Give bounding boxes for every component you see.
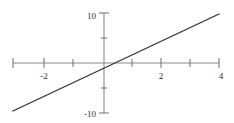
plot-canvas: 10 -10 -2 2 4 xyxy=(0,0,234,123)
line-graph-figure: 10 -10 -2 2 4 xyxy=(0,0,234,123)
y-axis-label-10: 10 xyxy=(87,11,97,21)
x-axis-label-4: 4 xyxy=(219,71,224,81)
y-axis-label-minus-10: -10 xyxy=(84,109,96,119)
x-axis-label-minus-2: -2 xyxy=(40,71,48,81)
x-axis-label-2: 2 xyxy=(159,71,164,81)
